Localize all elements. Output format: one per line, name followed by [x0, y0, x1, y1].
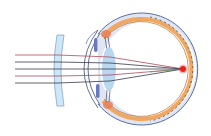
- iris-top: [94, 38, 98, 52]
- ciliary-body-top: [101, 30, 111, 38]
- eye-diagram: [0, 0, 211, 136]
- iris-bottom: [96, 84, 100, 98]
- corrective-lens: [54, 35, 64, 106]
- ciliary-body-bottom: [103, 101, 113, 109]
